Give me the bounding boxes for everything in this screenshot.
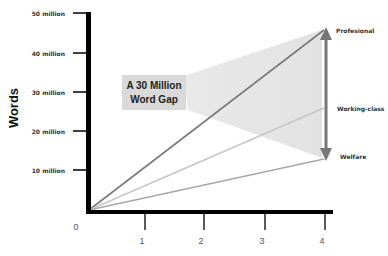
series-line-welfare xyxy=(89,159,324,210)
series-label-welfare: Welfare xyxy=(340,153,366,160)
xtick-label-3: 3 xyxy=(259,236,264,246)
y-axis xyxy=(73,12,91,214)
series-label-professional: Profesional xyxy=(336,27,374,34)
xtick-label-0: 0 xyxy=(73,222,78,232)
xtick-label-1: 1 xyxy=(139,236,144,246)
ytick-label-10m: 10 million xyxy=(32,167,65,174)
ytick-label-30m: 30 million xyxy=(32,89,65,96)
series-label-working-class: Working-class xyxy=(337,105,385,113)
ytick-label-20m: 20 million xyxy=(32,128,65,135)
x-axis xyxy=(86,210,333,230)
xtick-label-2: 2 xyxy=(198,236,203,246)
word-gap-chart: A 30 Million Word Gap 50 million 40 mill… xyxy=(0,0,388,256)
gap-callout-box: A 30 Million Word Gap xyxy=(122,75,186,110)
xtick-label-4: 4 xyxy=(319,236,324,246)
ytick-label-50m: 50 million xyxy=(32,10,65,17)
series-line-working-class xyxy=(89,108,324,210)
ytick-label-40m: 40 million xyxy=(32,50,65,57)
gap-callout-line2: Word Gap xyxy=(130,94,178,105)
y-axis-label: Words xyxy=(6,88,21,128)
gap-callout-line1: A 30 Million xyxy=(126,80,181,91)
